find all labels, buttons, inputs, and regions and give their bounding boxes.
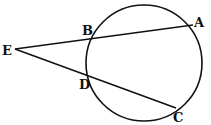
label-A: A: [193, 15, 205, 30]
secant-diagram: E B A D C: [0, 0, 211, 125]
circle: [86, 5, 202, 121]
secant-EC: [15, 49, 176, 108]
label-E: E: [2, 43, 12, 58]
label-B: B: [82, 23, 93, 38]
label-C: C: [173, 110, 183, 125]
secant-EA: [15, 25, 193, 49]
label-D: D: [79, 77, 90, 92]
